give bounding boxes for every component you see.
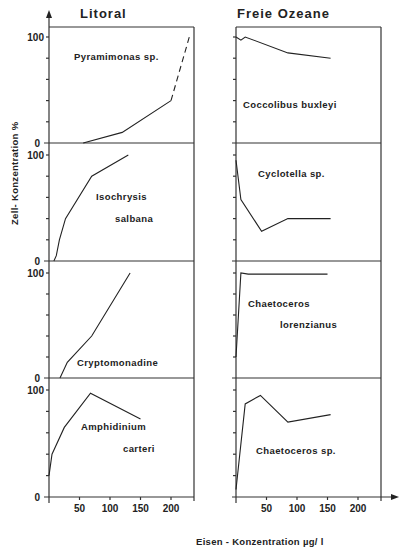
column-title-freie-ozeane: Freie Ozeane [237,6,330,21]
y-tick-label-100: 100 [27,32,44,43]
x-tick-label: 100 [102,503,119,514]
y-axis-arrow-icon [46,10,52,18]
series-line [83,101,171,143]
column-title-litoral: Litoral [80,6,127,21]
x-tick-label: 150 [319,503,336,514]
species-label: Coccolibus buxleyi [243,99,337,110]
species-label: Isochrysis [96,191,147,202]
species-label: Cyclotella sp. [258,168,325,179]
iron-concentration-chart: Litoral Freie Ozeane Zell- Konzentration… [0,0,406,554]
species-label: Chaetoceros sp. [256,445,336,456]
series-line [236,37,331,58]
x-tick-label: 50 [74,503,86,514]
x-tick-label: 150 [132,503,149,514]
series-line [236,395,331,489]
species-label: Cryptomonadine [77,357,158,368]
species-label: salbana [115,213,153,224]
y-tick-label-100: 100 [27,385,44,396]
series-line [54,155,128,261]
y-tick-label-0: 0 [34,256,40,267]
y-tick-label-100: 100 [27,268,44,279]
y-tick-label-0: 0 [34,138,40,149]
x-tick-label: 200 [350,503,367,514]
x-tick-label: 50 [261,503,273,514]
series-line-dashed [171,37,189,101]
y-tick-label-0: 0 [34,373,40,384]
species-label: Pyramimonas sp. [74,51,159,62]
y-tick-label-100: 100 [27,150,44,161]
x-axis-arrow-icon [391,494,399,500]
species-label: carteri [123,443,155,454]
y-tick-label-0: 0 [34,492,40,503]
species-label: lorenzianus [280,319,337,330]
species-label: Amphidinium [81,421,146,432]
x-tick-label: 200 [163,503,180,514]
species-label: Chaetoceros [248,298,310,309]
x-tick-label: 100 [289,503,306,514]
y-axis-title: Zell- Konzentration % [9,121,20,225]
series-line [236,273,328,357]
x-axis-title: Eisen - Konzentration µg/ l [196,536,324,547]
series-line [49,393,141,475]
species-labels: Pyramimonas sp.Coccolibus buxleyiIsochry… [74,51,337,456]
